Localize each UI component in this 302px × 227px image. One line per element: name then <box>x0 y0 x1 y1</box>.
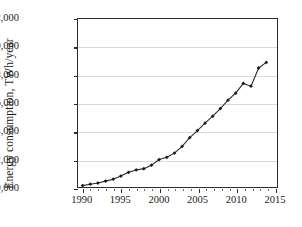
energy-consumption-chart: Energy consumption, TWh/year 10,00012,00… <box>0 0 302 227</box>
y-tick-label: 16,000 <box>0 98 19 109</box>
x-tick-mark <box>121 189 122 193</box>
x-minor-tick <box>245 189 246 191</box>
x-tick-mark <box>199 189 200 193</box>
x-minor-tick <box>90 189 91 191</box>
y-tick-label: 18,000 <box>0 70 19 81</box>
data-point-marker <box>88 182 92 186</box>
x-minor-tick <box>183 189 184 191</box>
data-point-marker <box>119 174 123 178</box>
series-line <box>83 62 267 185</box>
data-point-marker <box>81 184 85 188</box>
data-point-marker <box>104 179 108 183</box>
x-minor-tick <box>206 189 207 191</box>
x-minor-tick <box>168 189 169 191</box>
x-minor-tick <box>144 189 145 191</box>
x-minor-tick <box>152 189 153 191</box>
x-minor-tick <box>98 189 99 191</box>
data-point-marker <box>134 168 138 172</box>
x-minor-tick <box>253 189 254 191</box>
x-tick-mark <box>160 189 161 193</box>
y-tick-label: 12,000 <box>0 155 19 166</box>
x-tick-label: 2010 <box>226 195 247 206</box>
data-point-marker <box>142 167 146 171</box>
x-minor-tick <box>222 189 223 191</box>
data-point-marker <box>127 170 131 174</box>
x-tick-mark <box>83 189 84 193</box>
x-minor-tick <box>106 189 107 191</box>
plot-area <box>77 18 278 188</box>
x-tick-label: 1990 <box>71 195 92 206</box>
x-minor-tick <box>230 189 231 191</box>
data-point-marker <box>249 84 253 88</box>
x-tick-label: 1995 <box>110 195 131 206</box>
x-minor-tick <box>191 189 192 191</box>
data-point-marker <box>96 181 100 185</box>
data-series-line <box>78 19 277 187</box>
x-tick-label: 2005 <box>187 195 208 206</box>
x-tick-mark <box>237 189 238 193</box>
x-minor-tick <box>137 189 138 191</box>
x-minor-tick <box>260 189 261 191</box>
x-minor-tick <box>268 189 269 191</box>
y-tick-label: 10,000 <box>0 183 19 194</box>
data-point-marker <box>111 177 115 181</box>
x-minor-tick <box>175 189 176 191</box>
x-minor-tick <box>214 189 215 191</box>
x-tick-label: 2015 <box>264 195 285 206</box>
y-tick-label: 14,000 <box>0 126 19 137</box>
x-minor-tick <box>114 189 115 191</box>
y-tick-label: 22,000 <box>0 13 19 24</box>
x-tick-label: 2000 <box>148 195 169 206</box>
x-tick-mark <box>276 189 277 193</box>
y-tick-mark <box>74 189 78 190</box>
x-minor-tick <box>129 189 130 191</box>
y-tick-label: 20,000 <box>0 41 19 52</box>
